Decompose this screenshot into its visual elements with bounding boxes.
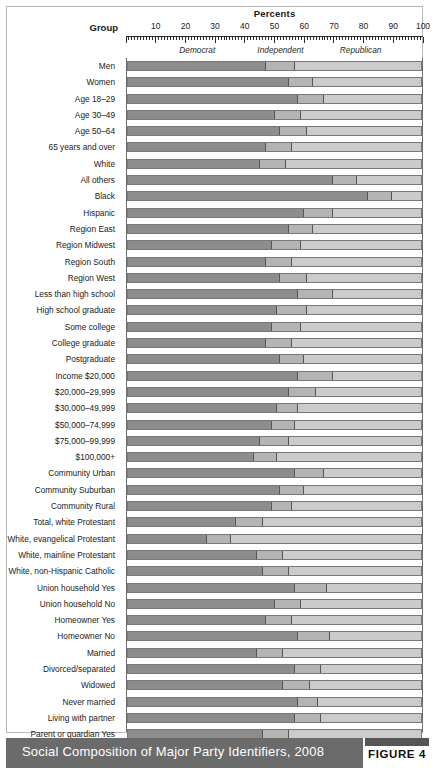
- chart-row: [127, 188, 422, 204]
- axis-minor-tick: [226, 37, 227, 40]
- group-label: Some college: [0, 319, 120, 335]
- legend-label-republican: Republican: [340, 45, 382, 55]
- stacked-bar: [127, 583, 422, 593]
- bar-segment-democrat: [128, 714, 295, 722]
- group-label: Age 30–49: [0, 107, 120, 123]
- axis-minor-tick: [229, 37, 230, 40]
- bar-segment-republican: [318, 698, 421, 706]
- stacked-bar: [127, 697, 422, 707]
- x-axis-tick-label: 40: [240, 21, 249, 31]
- bar-segment-independent: [289, 225, 312, 233]
- chart-row: [127, 221, 422, 237]
- axis-minor-tick: [256, 37, 257, 40]
- axis-minor-tick: [372, 37, 373, 40]
- group-label: Community Suburban: [0, 482, 120, 498]
- axis-minor-tick: [387, 37, 388, 40]
- chart-row: [127, 123, 422, 139]
- axis-minor-tick: [348, 37, 349, 40]
- stacked-bar: [127, 517, 422, 527]
- chart-row: [127, 661, 422, 677]
- bar-segment-independent: [266, 616, 292, 624]
- bar-segment-republican: [292, 143, 421, 151]
- group-label: Union household Yes: [0, 580, 120, 596]
- chart-row: [127, 465, 422, 481]
- stacked-bar: [127, 631, 422, 641]
- group-label: Income $20,000: [0, 368, 120, 384]
- stacked-bar: [127, 322, 422, 332]
- axis-minor-tick: [143, 37, 144, 40]
- bar-segment-independent: [266, 62, 295, 70]
- group-label: Widowed: [0, 677, 120, 693]
- x-axis-tick-label: 70: [329, 21, 338, 31]
- axis-minor-tick: [203, 37, 204, 40]
- bar-segment-democrat: [128, 681, 283, 689]
- axis-minor-tick: [197, 37, 198, 40]
- bar-segment-independent: [272, 421, 295, 429]
- bar-segment-democrat: [128, 649, 257, 657]
- bar-segment-independent: [275, 111, 301, 119]
- axis-minor-tick: [354, 37, 355, 40]
- bar-segment-independent: [260, 437, 289, 445]
- group-label: Region East: [0, 221, 120, 237]
- chart-row: [127, 254, 422, 270]
- axis-minor-tick: [324, 37, 325, 40]
- group-label: Hispanic: [0, 205, 120, 221]
- bar-segment-republican: [330, 632, 421, 640]
- x-axis-tick-label: 20: [181, 21, 190, 31]
- bar-segment-republican: [301, 111, 421, 119]
- bar-segment-independent: [368, 192, 391, 200]
- axis-minor-tick: [140, 37, 141, 40]
- bar-segment-republican: [298, 404, 421, 412]
- bar-segment-republican: [292, 258, 421, 266]
- axis-minor-tick: [316, 37, 317, 40]
- figure-number-tag: FIGURE 4: [363, 738, 431, 768]
- axis-minor-tick: [322, 37, 323, 40]
- axis-major-tick: [423, 37, 424, 43]
- axis-minor-tick: [396, 37, 397, 40]
- axis-minor-tick: [378, 37, 379, 40]
- axis-minor-tick: [417, 37, 418, 40]
- bar-segment-republican: [327, 584, 421, 592]
- axis-minor-tick: [268, 37, 269, 40]
- bar-segment-republican: [292, 502, 421, 510]
- axis-minor-tick: [286, 37, 287, 40]
- bar-segment-democrat: [128, 62, 266, 70]
- axis-minor-tick: [191, 37, 192, 40]
- chart-row: [127, 58, 422, 74]
- axis-minor-tick: [179, 37, 180, 40]
- bar-segment-independent: [283, 681, 309, 689]
- bar-segment-independent: [295, 714, 321, 722]
- stacked-bar: [127, 664, 422, 674]
- axis-major-tick: [274, 37, 275, 43]
- bar-segment-republican: [333, 372, 421, 380]
- bar-segment-democrat: [128, 225, 289, 233]
- chart-row: [127, 677, 422, 693]
- axis-major-tick: [185, 37, 186, 43]
- bar-segment-democrat: [128, 160, 260, 168]
- bar-segment-independent: [333, 176, 356, 184]
- axis-major-tick: [155, 37, 156, 43]
- group-label: Married: [0, 645, 120, 661]
- bar-segment-democrat: [128, 176, 333, 184]
- axis-minor-tick: [209, 37, 210, 40]
- bar-segment-independent: [298, 698, 319, 706]
- bar-segment-independent: [280, 274, 306, 282]
- group-label: Postgraduate: [0, 351, 120, 367]
- bar-segment-independent: [272, 323, 301, 331]
- bar-segment-republican: [321, 665, 421, 673]
- bar-segment-republican: [295, 421, 421, 429]
- bar-segment-republican: [324, 95, 421, 103]
- bar-segment-republican: [307, 127, 421, 135]
- bar-segment-republican: [310, 681, 421, 689]
- chart-row: [127, 645, 422, 661]
- axis-minor-tick: [149, 37, 150, 40]
- bar-rows: [127, 58, 422, 732]
- stacked-bar: [127, 371, 422, 381]
- bar-segment-republican: [289, 730, 421, 738]
- chart-row: [127, 531, 422, 547]
- plot-area: [126, 58, 423, 732]
- chart-row: [127, 351, 422, 367]
- group-label: Living with partner: [0, 710, 120, 726]
- bar-segment-republican: [307, 306, 421, 314]
- chart-row: [127, 417, 422, 433]
